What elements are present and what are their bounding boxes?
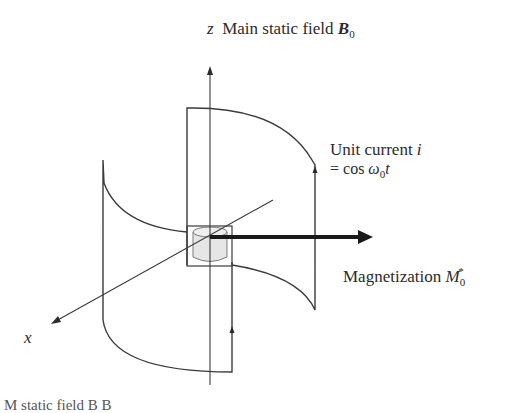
x-axis [56, 200, 273, 321]
current-arrow-right [313, 166, 318, 173]
current-label-line1: Unit current i [330, 141, 422, 158]
back-saddle-coil [187, 108, 315, 310]
magnetization-arrowhead [358, 230, 373, 244]
magnetization-label: Magnetization M0* [343, 266, 464, 288]
x-axis-arrowhead [51, 316, 61, 324]
current-arrow-bottom [230, 326, 235, 333]
current-label-line2: = cos ω0t [330, 161, 390, 180]
bottom-caption-partial: M static field B B [4, 398, 112, 413]
z-axis-arrowhead [207, 66, 213, 75]
z-axis-label: z Main static field B0 [207, 20, 355, 40]
x-axis-label: x [24, 329, 32, 346]
